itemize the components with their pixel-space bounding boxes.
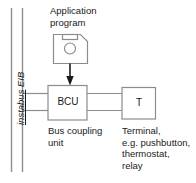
- application-program-label: Applicationprogram: [50, 5, 128, 28]
- terminal-desc-line1: Terminal,: [122, 125, 161, 136]
- bcu-desc-line2: unit: [48, 137, 63, 148]
- terminal-desc-line2: e.g. pushbutton,: [122, 137, 190, 148]
- download-arrow-icon: [66, 64, 73, 86]
- application-program-line2: program: [50, 17, 85, 28]
- bus-label-prefix: instabus: [15, 90, 26, 125]
- bcu-abbr-label: BCU: [48, 96, 88, 107]
- terminal-description-label: Terminal,e.g. pushbutton,thermostat,rela…: [122, 125, 196, 171]
- bcu-description-label: Bus couplingunit: [48, 125, 118, 148]
- terminal-abbr-label: T: [122, 97, 156, 108]
- bus-label-suffix: EIB: [15, 72, 26, 90]
- floppy-disk-icon: [54, 35, 88, 64]
- diagram-canvas: instabus EIB Applicationprogram BCU T Bu…: [0, 0, 196, 183]
- bus-label: instabus EIB: [15, 55, 26, 125]
- terminal-desc-line4: relay: [122, 160, 143, 171]
- application-program-line1: Application: [50, 5, 96, 16]
- terminal-desc-line3: thermostat,: [122, 148, 170, 159]
- bcu-desc-line1: Bus coupling: [48, 125, 102, 136]
